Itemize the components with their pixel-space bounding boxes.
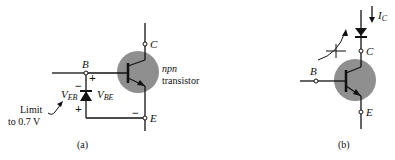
minus-top-a: − [75,79,82,93]
collector-node-a [143,42,147,46]
collector-node-b [359,49,363,53]
emitter-node-b [359,110,363,114]
label-b-b: B [310,65,317,77]
label-vbe: VBE [97,88,114,102]
label-e-b: E [365,106,373,118]
curved-arrowhead [342,29,348,36]
label-e-a: E [149,112,157,124]
label-transistor: transistor [162,75,200,86]
plus-top-a: + [89,71,96,85]
figure-a: C B E npn transistor + − + − VEB VBE Lim… [8,23,200,151]
label-c-b: C [366,45,374,57]
limit-arrowhead-a [57,101,63,107]
limit-line1: Limit [20,104,42,115]
limit-pointer-a [48,104,61,114]
plus-bottom-a: + [75,102,82,116]
caption-a: (a) [77,139,88,151]
emitter-node-a [143,116,147,120]
label-ic: IC [377,9,388,23]
label-c-a: C [150,38,158,50]
curved-arrow [318,32,345,60]
limit-line2: to 0.7 V [8,116,41,127]
transistor-body-a [117,51,159,93]
caption-b: (b) [338,139,350,151]
diode-triangle-b [355,28,367,36]
bjt-diagram: C B E npn transistor + − + − VEB VBE Lim… [0,0,395,160]
figure-b: C B E IC (b) [300,6,388,151]
transistor-body-b [334,59,376,101]
minus-right-a: − [132,106,139,120]
label-b-a: B [82,58,89,70]
label-npn: npn [162,63,177,74]
current-arrowhead [369,17,375,23]
base-node-b [314,79,318,83]
base-node-a [84,71,88,75]
